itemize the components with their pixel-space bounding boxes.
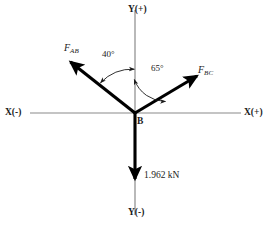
load-magnitude-label: 1.962 kN (144, 170, 179, 180)
axis-label-y-negative: Y(-) (128, 207, 144, 217)
vector-label-fab-sub: AB (70, 47, 79, 55)
angle-label-fab: 40° (102, 49, 115, 59)
force-vector-diagram: Y(+) Y(-) X(+) X(-) FAB FBC 40° 65° B 1.… (0, 0, 275, 230)
diagram-canvas (0, 0, 275, 230)
origin-point-label-b: B (137, 116, 143, 126)
vector-label-fbc-sub: BC (204, 69, 213, 77)
angle-arc-fab (101, 69, 135, 83)
vector-fbc-arrow (135, 76, 197, 113)
axis-label-x-positive: X(+) (244, 107, 263, 117)
vector-label-fbc: FBC (198, 64, 213, 75)
angle-label-fbc: 65° (151, 63, 164, 73)
axis-label-y-positive: Y(+) (128, 4, 147, 14)
vector-label-fab: FAB (64, 42, 79, 53)
axis-label-x-negative: X(-) (5, 107, 21, 117)
